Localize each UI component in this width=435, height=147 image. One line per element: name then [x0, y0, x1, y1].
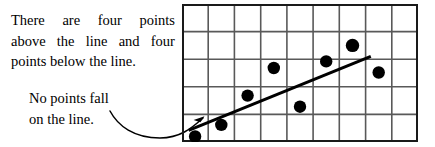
- caption-word: four: [151, 31, 175, 52]
- caption-word: line: [86, 31, 108, 52]
- caption-word: the: [57, 31, 75, 52]
- caption-word: points: [140, 10, 175, 31]
- data-point: [346, 39, 359, 52]
- caption-line-1: There are four points: [11, 10, 175, 31]
- scatter-svg: [182, 4, 418, 142]
- caption-line-2: on the line.: [29, 109, 109, 130]
- caption-word: There: [11, 10, 45, 31]
- caption-word: above: [11, 31, 46, 52]
- caption-no-points-on-line: No points fall on the line.: [29, 88, 109, 129]
- data-point: [373, 66, 385, 78]
- caption-word: and: [119, 31, 140, 52]
- caption-line-3: points below the line.: [11, 51, 175, 72]
- caption-line-1: No points fall: [29, 88, 109, 109]
- caption-line-2: above the line and four: [11, 31, 175, 52]
- caption-word: are: [62, 10, 80, 31]
- data-point: [320, 55, 332, 67]
- grid-vertical-lines: [208, 4, 392, 142]
- plot-area: [182, 4, 418, 142]
- caption-above-below: There are four points above the line and…: [11, 10, 175, 72]
- caption-word: four: [98, 10, 122, 31]
- data-point: [294, 101, 306, 113]
- data-point: [268, 62, 280, 74]
- scatter-plot-figure: There are four points above the line and…: [0, 0, 435, 147]
- data-point: [189, 130, 201, 142]
- data-point: [215, 119, 227, 131]
- data-point: [241, 89, 253, 101]
